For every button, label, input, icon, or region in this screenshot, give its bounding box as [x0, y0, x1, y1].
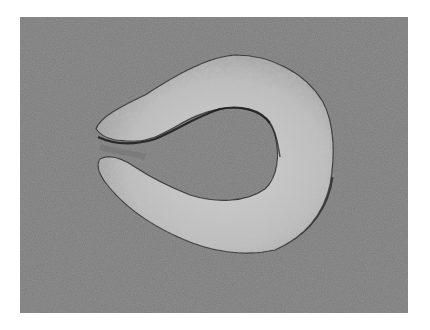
photograph: [20, 17, 408, 313]
specimen-photo-svg: [20, 17, 408, 313]
page: Horseshoe-shaped textured specimen on a …: [0, 0, 430, 330]
